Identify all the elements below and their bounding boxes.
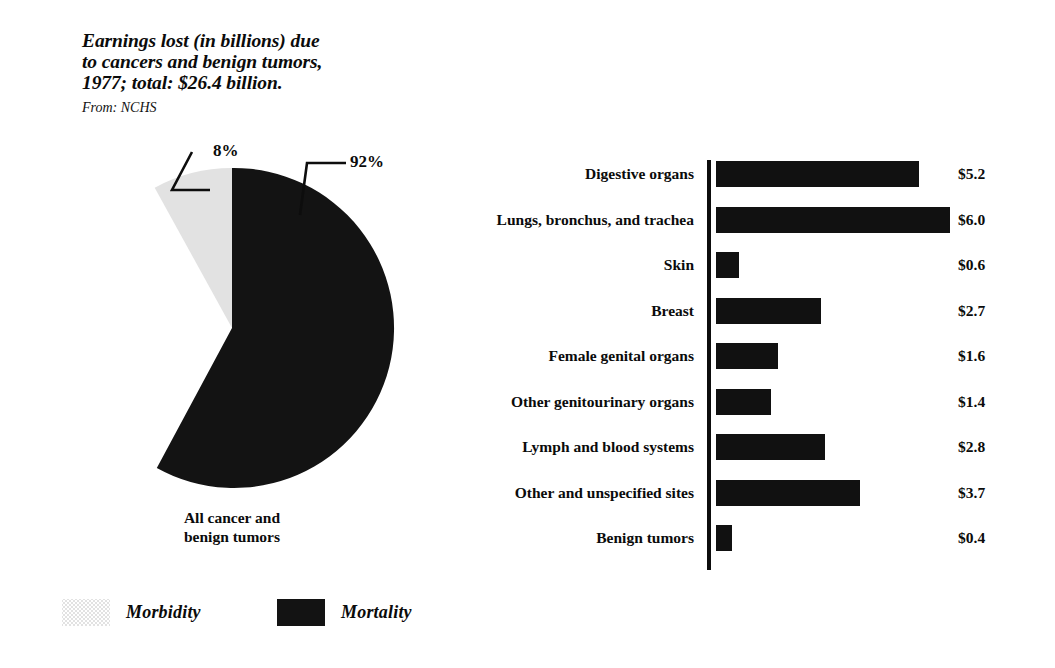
bar-row: Benign tumors$0.4 xyxy=(430,522,1050,554)
pie-label-mortality-percent: 92% xyxy=(350,152,384,172)
bar-rect xyxy=(716,525,732,551)
bar-category-label: Skin xyxy=(664,249,694,281)
legend-swatch-morbidity-icon xyxy=(62,599,110,626)
bar-category-label: Female genital organs xyxy=(548,340,694,372)
bar-value-label: $3.7 xyxy=(958,477,985,509)
bar-category-label: Lymph and blood systems xyxy=(522,431,694,463)
bar-value-label: $0.6 xyxy=(958,249,985,281)
pie-label-morbidity-percent: 8% xyxy=(213,141,239,161)
bar-rect xyxy=(716,480,860,506)
pie-chart-panel: 8% 92% All cancer and benign tumors xyxy=(0,0,440,600)
bar-category-label: Breast xyxy=(651,295,694,327)
bar-value-label: $5.2 xyxy=(958,158,985,190)
bar-category-label: Benign tumors xyxy=(596,522,694,554)
bar-value-label: $2.7 xyxy=(958,295,985,327)
bar-rect xyxy=(716,252,739,278)
bar-rect xyxy=(716,389,771,415)
bar-category-label: Other genitourinary organs xyxy=(511,386,694,418)
bar-rect xyxy=(716,434,825,460)
bar-category-label: Digestive organs xyxy=(585,158,694,190)
bar-row: Lymph and blood systems$2.8 xyxy=(430,431,1050,463)
bar-value-label: $0.4 xyxy=(958,522,985,554)
bar-rect xyxy=(716,207,950,233)
legend-swatch-mortality-icon xyxy=(277,599,325,626)
legend-label-morbidity: Morbidity xyxy=(126,598,201,627)
bar-value-label: $2.8 xyxy=(958,431,985,463)
pie-caption: All cancer and benign tumors xyxy=(72,508,392,546)
bar-row: Breast$2.7 xyxy=(430,295,1050,327)
pie-slice-morbidity xyxy=(155,168,232,328)
bar-row: Other and unspecified sites$3.7 xyxy=(430,477,1050,509)
bar-rect xyxy=(716,161,919,187)
bar-value-label: $1.6 xyxy=(958,340,985,372)
bar-category-label: Other and unspecified sites xyxy=(515,477,694,509)
bar-rect xyxy=(716,343,778,369)
bar-rect xyxy=(716,298,821,324)
bar-value-label: $1.4 xyxy=(958,386,985,418)
bar-category-label: Lungs, bronchus, and trachea xyxy=(497,204,694,236)
bar-row: Female genital organs$1.6 xyxy=(430,340,1050,372)
bar-row: Lungs, bronchus, and trachea$6.0 xyxy=(430,204,1050,236)
legend-label-mortality: Mortality xyxy=(341,598,412,627)
pie-chart-graphic xyxy=(60,138,410,508)
bar-chart-panel: Digestive organs$5.2Lungs, bronchus, and… xyxy=(430,158,1050,578)
bar-row: Other genitourinary organs$1.4 xyxy=(430,386,1050,418)
figure-earnings-lost-chart: Earnings lost (in billions) due to cance… xyxy=(0,0,1055,668)
bar-value-label: $6.0 xyxy=(958,204,985,236)
bar-row: Skin$0.6 xyxy=(430,249,1050,281)
bar-row: Digestive organs$5.2 xyxy=(430,158,1050,190)
